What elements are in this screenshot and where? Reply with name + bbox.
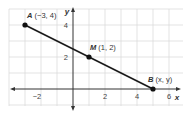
x-axis-label: x <box>174 93 180 102</box>
x-axis-arrow-right-icon <box>176 87 181 91</box>
tick-x-6: 6 <box>167 92 171 101</box>
tick-x-2: 2 <box>103 92 107 101</box>
label-point-a-coords: (−3, 4) <box>32 11 56 20</box>
y-axis <box>71 7 75 111</box>
coordinate-plane-figure: −2 2 4 6 2 4 x y A (−3, 4) M (1, 2) B (x… <box>0 0 183 114</box>
point-b <box>150 86 155 91</box>
label-point-b-coords: (x, y) <box>153 75 172 84</box>
tick-y-4: 4 <box>64 21 68 30</box>
x-axis-arrow-left-icon <box>10 87 15 91</box>
tick-x-neg2: −2 <box>33 92 42 101</box>
label-point-a: A (−3, 4) <box>26 11 57 20</box>
label-point-m: M (1, 2) <box>90 43 116 52</box>
label-point-m-coords: (1, 2) <box>96 43 116 52</box>
point-a <box>22 22 27 27</box>
y-axis-arrow-down-icon <box>71 106 75 111</box>
label-point-b: B (x, y) <box>148 75 173 84</box>
y-axis-label: y <box>64 7 70 16</box>
point-m <box>86 54 91 59</box>
tick-x-4: 4 <box>135 92 139 101</box>
y-axis-arrow-up-icon <box>71 7 75 12</box>
tick-y-2: 2 <box>64 53 68 62</box>
